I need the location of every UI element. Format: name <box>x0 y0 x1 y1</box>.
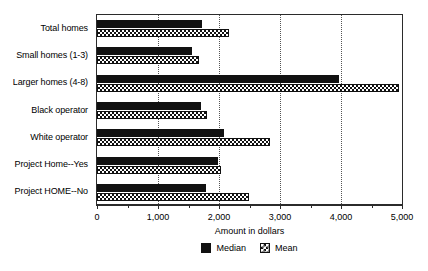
category-label: Project HOME--No <box>15 186 88 196</box>
gridline-4000 <box>341 15 342 204</box>
x-tick-label: 1,000 <box>147 212 170 222</box>
bar-mean <box>97 111 207 119</box>
chart-legend: Median Mean <box>96 243 403 253</box>
bar-median <box>97 157 218 165</box>
x-tick-label: 4,000 <box>330 212 353 222</box>
bar-median <box>97 184 206 192</box>
x-axis-title: Amount in dollars <box>96 226 403 236</box>
x-tick-major <box>341 205 342 209</box>
solid-black-square-icon <box>201 243 211 253</box>
category-label: Total homes <box>41 23 88 33</box>
x-tick-major <box>158 205 159 209</box>
bar-mean <box>97 166 221 174</box>
bar-median <box>97 47 192 55</box>
x-tick-major <box>219 205 220 209</box>
category-label: Black operator <box>31 105 88 115</box>
bar-median <box>97 75 339 83</box>
legend-label: Median <box>216 243 246 253</box>
bar-mean <box>97 56 199 64</box>
bar-mean <box>97 84 399 92</box>
legend-item-mean: Mean <box>260 243 298 253</box>
x-tick-label: 0 <box>94 212 99 222</box>
category-label: Small homes (1-3) <box>16 50 88 60</box>
x-tick-label: 5,000 <box>391 212 414 222</box>
gridline-3000 <box>280 15 281 204</box>
bar-median <box>97 129 224 137</box>
x-tick-major <box>97 205 98 209</box>
category-label: White operator <box>30 132 88 142</box>
legend-label: Mean <box>275 243 298 253</box>
x-tick-minor <box>372 205 373 208</box>
x-tick-label: 2,000 <box>208 212 231 222</box>
x-tick-major <box>402 205 403 209</box>
category-label: Project Home--Yes <box>15 159 89 169</box>
x-tick-minor <box>189 205 190 208</box>
x-tick-minor <box>311 205 312 208</box>
category-axis-labels: Total homes Small homes (1-3) Larger hom… <box>0 14 92 205</box>
x-tick-minor <box>128 205 129 208</box>
bar-chart: Total homes Small homes (1-3) Larger hom… <box>0 0 428 271</box>
gridline-2000 <box>219 15 220 204</box>
bar-median <box>97 102 201 110</box>
plot-area <box>96 14 403 205</box>
category-label: Larger homes (4-8) <box>13 77 88 87</box>
legend-item-median: Median <box>201 243 246 253</box>
x-tick-major <box>280 205 281 209</box>
bar-mean <box>97 193 249 201</box>
bar-median <box>97 20 202 28</box>
bar-mean <box>97 138 270 146</box>
bar-mean <box>97 29 229 37</box>
x-tick-minor <box>250 205 251 208</box>
crosshatch-square-icon <box>260 243 270 253</box>
x-tick-label: 3,000 <box>269 212 292 222</box>
